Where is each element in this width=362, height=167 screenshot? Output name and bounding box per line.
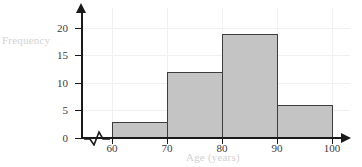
y-tick-5 [75, 110, 82, 111]
bar-70-80 [167, 72, 223, 138]
x-tick-label-90: 90 [260, 142, 294, 154]
x-tick-label-60: 60 [95, 142, 129, 154]
y-tick-10 [75, 83, 82, 84]
y-axis-arrow-icon [76, 3, 86, 13]
gridline-horizontal-20 [82, 28, 350, 29]
x-tick-label-100: 100 [315, 142, 349, 154]
y-tick-label-0: 0 [42, 133, 68, 143]
y-axis-title: Frequency [2, 34, 50, 46]
y-tick-label-15: 15 [42, 50, 68, 60]
x-tick-label-70: 70 [150, 142, 184, 154]
y-tick-15 [75, 55, 82, 56]
plot-area: 0 5 10 15 20 60 70 80 90 100 Frequency A… [0, 0, 362, 167]
y-tick-20 [75, 28, 82, 29]
y-tick-label-20: 20 [42, 23, 68, 33]
y-tick-0 [75, 138, 82, 139]
histogram-chart: 0 5 10 15 20 60 70 80 90 100 Frequency A… [0, 0, 362, 167]
gridline-horizontal-15 [82, 55, 350, 56]
x-axis-title: Age (years) [186, 151, 240, 163]
bar-60-70 [112, 122, 168, 139]
y-tick-label-5: 5 [42, 105, 68, 115]
y-axis-line [81, 12, 83, 138]
bar-80-90 [222, 34, 278, 139]
y-tick-label-10: 10 [42, 78, 68, 88]
x-axis-line [81, 137, 343, 139]
gridline-vertical-60 [112, 8, 113, 138]
bar-90-100 [277, 105, 333, 138]
